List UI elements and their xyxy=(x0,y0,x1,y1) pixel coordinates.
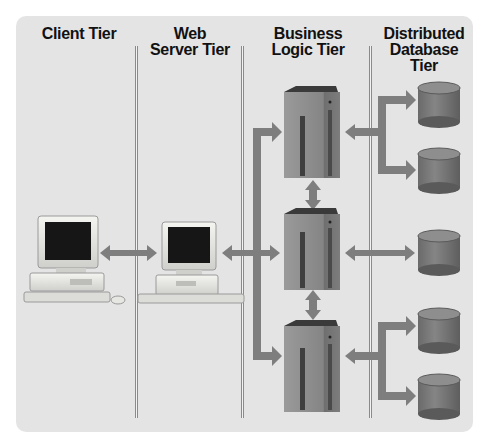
connection-arrows xyxy=(100,90,416,406)
bidirectional-arrow xyxy=(222,245,280,261)
database-icon xyxy=(418,230,460,276)
bidirectional-arrow xyxy=(100,245,157,261)
database-icon xyxy=(418,148,460,194)
database-icon xyxy=(418,308,460,354)
business-server-icon xyxy=(284,86,340,178)
bidirectional-arrow xyxy=(305,180,321,210)
business-server-icon xyxy=(284,320,340,412)
database-icon xyxy=(418,82,460,128)
bidirectional-arrow xyxy=(345,245,415,261)
bidirectional-arrow xyxy=(305,290,321,320)
web-server-computer-icon xyxy=(138,222,244,303)
database-icon xyxy=(418,374,460,420)
architecture-diagram xyxy=(0,0,490,448)
business-server-icon xyxy=(284,208,340,290)
